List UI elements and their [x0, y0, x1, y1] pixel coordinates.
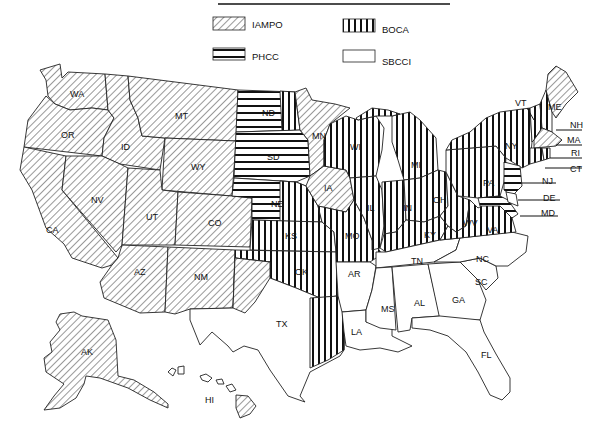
plumbing-code-map: IAMPO BOCA PHCC SBCCI [0, 0, 598, 434]
states [20, 64, 578, 418]
label-de: DE [543, 193, 556, 203]
legend-label: PHCC [252, 51, 279, 62]
label-nh: NH [570, 120, 583, 130]
label-ia: IA [324, 183, 333, 193]
label-va: VA [487, 225, 498, 235]
label-sd: SD [267, 152, 280, 162]
label-md: MD [541, 208, 555, 218]
legend-label: BOCA [382, 24, 410, 35]
legend-item-sbcci: SBCCI [343, 50, 411, 67]
label-hi: HI [205, 395, 214, 405]
legend-swatch-vertical [343, 19, 375, 32]
label-vt: VT [515, 98, 527, 108]
label-nc: NC [476, 254, 489, 264]
label-ga: GA [452, 295, 465, 305]
legend-swatch-horizontal [213, 48, 245, 60]
state-tx-east-boca [310, 296, 345, 368]
label-tn: TN [411, 256, 423, 266]
label-pa: PA [483, 178, 494, 188]
label-mt: MT [175, 111, 188, 121]
label-ar: AR [348, 269, 361, 279]
legend-label: IAMPO [252, 19, 283, 30]
label-ky: KY [424, 230, 436, 240]
label-wa: WA [70, 89, 84, 99]
legend-item-boca: BOCA [343, 19, 410, 35]
label-wv: WV [463, 218, 478, 228]
label-fl: FL [481, 350, 492, 360]
label-ms: MS [381, 304, 395, 314]
label-ut: UT [146, 212, 158, 222]
label-al: AL [414, 298, 425, 308]
label-in: IN [403, 203, 412, 213]
label-ak: AK [81, 347, 93, 357]
legend-swatch-diagonal [213, 17, 245, 30]
state-ct [530, 148, 544, 164]
state-hi [168, 366, 256, 418]
label-nv: NV [91, 195, 104, 205]
label-ma: MA [567, 135, 581, 145]
label-ct: CT [570, 164, 582, 174]
label-ny: NY [505, 141, 518, 151]
legend-item-phcc: PHCC [213, 48, 279, 62]
label-la: LA [351, 327, 362, 337]
label-wy: WY [191, 162, 206, 172]
label-ne: NE [271, 199, 284, 209]
legend-item-iampo: IAMPO [213, 17, 283, 30]
label-ok: OK [295, 267, 308, 277]
label-nm: NM [194, 272, 208, 282]
label-sc: SC [475, 277, 488, 287]
state-fl [412, 316, 510, 400]
state-pa [446, 146, 506, 198]
label-az: AZ [134, 267, 146, 277]
label-oh: OH [433, 195, 447, 205]
label-nd: ND [262, 108, 275, 118]
legend-swatch-blank [343, 50, 375, 62]
label-id: ID [121, 142, 131, 152]
label-nj: NJ [542, 176, 553, 186]
label-mi: MI [411, 160, 421, 170]
state-ak [44, 312, 168, 410]
label-mo: MO [345, 231, 360, 241]
state-mt [128, 76, 238, 141]
label-ks: KS [285, 231, 297, 241]
label-il: IL [367, 203, 375, 213]
label-wi: WI [350, 142, 361, 152]
state-nj [504, 162, 522, 196]
label-me: ME [548, 102, 562, 112]
label-ca: CA [46, 225, 59, 235]
label-mn: MN [312, 131, 326, 141]
label-tx: TX [276, 319, 288, 329]
label-ri: RI [571, 148, 580, 158]
label-or: OR [61, 130, 75, 140]
label-co: CO [208, 218, 222, 228]
legend: IAMPO BOCA PHCC SBCCI [213, 17, 411, 67]
legend-label: SBCCI [382, 56, 411, 67]
